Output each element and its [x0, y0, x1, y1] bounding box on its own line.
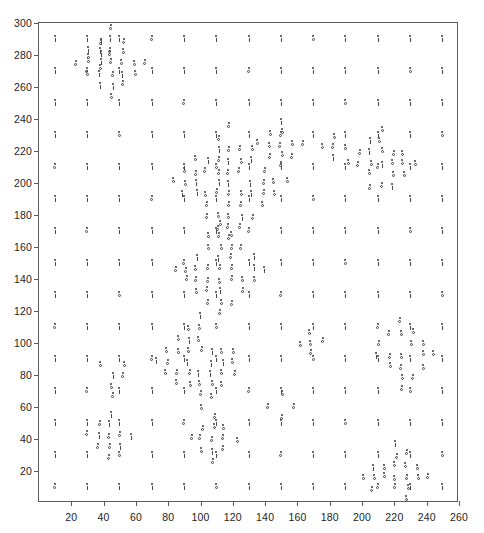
data-point: [387, 330, 392, 337]
data-point: [311, 387, 316, 394]
data-point: [85, 195, 90, 202]
y-tick: [34, 119, 39, 120]
data-point: [117, 419, 122, 426]
data-point: [193, 155, 198, 162]
data-point: [247, 131, 252, 138]
x-tick: [71, 501, 72, 506]
data-point: [311, 35, 316, 42]
data-point: [247, 291, 252, 298]
data-point: [99, 39, 104, 46]
data-point: [440, 35, 445, 42]
data-point: [285, 177, 290, 184]
data-point: [180, 190, 185, 197]
data-point: [108, 50, 113, 57]
data-point: [166, 359, 171, 366]
data-point: [226, 169, 231, 176]
y-tick: [34, 279, 39, 280]
data-point: [376, 387, 381, 394]
data-point: [356, 161, 361, 168]
data-point: [85, 483, 90, 490]
scatter-plot-figure: 2040608010012014016018020022024026028030…: [0, 0, 484, 533]
data-point: [331, 154, 336, 161]
data-point: [194, 276, 199, 283]
x-tick-label: 100: [191, 511, 209, 523]
data-point: [343, 144, 348, 151]
data-point: [197, 380, 202, 387]
data-point: [405, 474, 410, 481]
data-point: [210, 348, 215, 355]
data-point: [369, 160, 374, 167]
x-tick-label: 60: [130, 511, 142, 523]
data-point: [186, 325, 191, 332]
data-point: [411, 328, 416, 335]
data-point: [219, 348, 224, 355]
data-point: [308, 340, 313, 347]
data-point: [111, 71, 116, 78]
data-point: [53, 131, 58, 138]
data-point: [108, 35, 113, 42]
data-point: [227, 190, 232, 197]
data-point: [272, 190, 277, 197]
data-point: [227, 234, 232, 241]
data-point: [117, 35, 122, 42]
data-point: [97, 70, 102, 77]
data-point: [182, 483, 187, 490]
data-point: [247, 67, 252, 74]
data-point: [252, 264, 257, 271]
data-point: [376, 163, 381, 170]
data-point: [247, 259, 252, 266]
data-point: [382, 472, 387, 479]
data-point: [380, 161, 385, 168]
data-point: [117, 99, 122, 106]
data-point: [311, 483, 316, 490]
data-point: [408, 259, 413, 266]
data-point: [421, 350, 426, 357]
data-point: [239, 158, 244, 165]
data-point: [203, 167, 208, 174]
data-point: [117, 259, 122, 266]
data-point: [214, 291, 219, 298]
y-tick: [34, 23, 39, 24]
data-point: [210, 436, 215, 443]
y-tick-label: 280: [14, 49, 32, 61]
data-point: [249, 190, 254, 197]
data-point: [150, 163, 155, 170]
data-point: [440, 355, 445, 362]
data-point: [262, 179, 267, 186]
data-point: [214, 99, 219, 106]
data-point: [408, 483, 413, 490]
data-point: [250, 145, 255, 152]
data-point: [111, 392, 116, 399]
data-point: [255, 139, 260, 146]
data-point: [117, 163, 122, 170]
data-point: [117, 227, 122, 234]
x-tick: [459, 501, 460, 506]
data-point: [122, 361, 127, 368]
data-point: [311, 419, 316, 426]
y-tick: [34, 247, 39, 248]
data-point: [98, 64, 103, 71]
data-point: [392, 461, 397, 468]
data-point: [311, 131, 316, 138]
data-point: [343, 35, 348, 42]
data-point: [400, 374, 405, 381]
data-point: [194, 288, 199, 295]
data-point: [221, 424, 226, 431]
y-tick-label: 80: [20, 369, 32, 381]
data-point: [182, 131, 187, 138]
data-point: [408, 451, 413, 458]
data-point: [185, 359, 190, 366]
data-point: [214, 163, 219, 170]
data-point: [218, 309, 223, 316]
data-point: [343, 99, 348, 106]
data-point: [53, 483, 58, 490]
y-tick: [34, 375, 39, 376]
data-point: [182, 99, 187, 106]
data-point: [376, 195, 381, 202]
data-point: [230, 244, 235, 251]
data-point: [400, 385, 405, 392]
data-point: [311, 355, 316, 362]
data-point: [229, 231, 234, 238]
data-point: [98, 420, 103, 427]
data-point: [182, 227, 187, 234]
